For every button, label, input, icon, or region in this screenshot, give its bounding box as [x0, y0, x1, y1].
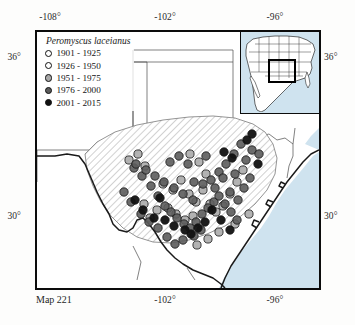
- longitude-label-bottom-96: -96°: [267, 295, 284, 305]
- map-frame: Peromyscus laceianus 1901 - 1925 1926 - …: [35, 30, 321, 290]
- latitude-label-right-30: 30°: [324, 211, 338, 221]
- latitude-label-left-30: 30°: [7, 211, 21, 221]
- inset-locator-map: [240, 31, 320, 114]
- legend-swatch-1901-1925: [45, 50, 52, 57]
- distribution-map-figure: -108° -102° -96° -102° -96° 36° 30° 36° …: [0, 0, 355, 325]
- legend-item-1926-1950: 1926 - 1950: [44, 59, 130, 71]
- legend-swatch-1926-1950: [45, 62, 52, 69]
- legend-swatch-1951-1975: [45, 74, 52, 81]
- legend-swatch-1976-2000: [45, 87, 52, 94]
- legend-label-1976-2000: 1976 - 2000: [56, 85, 100, 95]
- map-caption: Map 221: [36, 294, 72, 305]
- legend-item-1976-2000: 1976 - 2000: [44, 84, 130, 96]
- legend-label-1951-1975: 1951 - 1975: [56, 73, 100, 83]
- legend-item-2001-2015: 2001 - 2015: [44, 97, 130, 109]
- legend-item-1951-1975: 1951 - 1975: [44, 72, 130, 84]
- inset-canvas: [241, 32, 318, 112]
- legend-title: Peromyscus laceianus: [46, 36, 130, 46]
- latitude-label-right-36: 36°: [324, 52, 338, 62]
- longitude-label-top-108: -108°: [39, 12, 61, 22]
- longitude-label-bottom-102: -102°: [154, 295, 176, 305]
- legend-label-1926-1950: 1926 - 1950: [56, 61, 100, 71]
- northeast-water: [305, 128, 319, 150]
- legend-swatch-2001-2015: [45, 99, 52, 106]
- latitude-label-left-36: 36°: [7, 52, 21, 62]
- legend-label-1901-1925: 1901 - 1925: [56, 48, 100, 58]
- longitude-label-top-102: -102°: [154, 12, 176, 22]
- legend-label-2001-2015: 2001 - 2015: [56, 98, 100, 108]
- map-legend: Peromyscus laceianus 1901 - 1925 1926 - …: [41, 34, 134, 111]
- legend-item-1901-1925: 1901 - 1925: [44, 47, 130, 59]
- longitude-label-top-96: -96°: [267, 12, 284, 22]
